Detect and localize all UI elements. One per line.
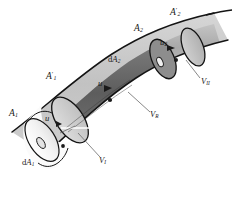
label-u2: u2 xyxy=(160,38,167,47)
u2-point xyxy=(174,58,178,62)
label-dA2: dA2 xyxy=(108,55,120,64)
label-A1-prime: A′1 xyxy=(46,71,56,82)
label-u-mid: u xyxy=(98,79,102,88)
label-V2: VII xyxy=(201,77,210,86)
stream-tube-illustration xyxy=(0,0,238,201)
label-A1: A1 xyxy=(9,109,18,119)
leader-VR xyxy=(128,92,150,112)
u-point-mid xyxy=(108,98,112,102)
figure-canvas: A1 A′1 A2 A′2 dA1 dA2 u u u2 VI VR VII xyxy=(0,0,238,201)
label-A2-prime: A′2 xyxy=(170,7,180,18)
u-point-left xyxy=(61,144,65,148)
label-A2: A2 xyxy=(134,24,143,34)
label-u-left: u xyxy=(45,114,49,123)
label-dA1: dA1 xyxy=(22,158,34,167)
label-VR: VR xyxy=(150,110,159,119)
leader-V1 xyxy=(78,133,100,157)
label-V1: VI xyxy=(99,156,106,165)
